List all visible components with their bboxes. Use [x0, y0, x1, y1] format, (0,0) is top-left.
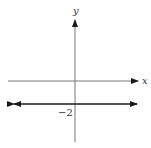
coordinate-plane: y x −2 [0, 0, 151, 148]
intercept-label: −2 [58, 107, 73, 118]
x-axis-label: x [142, 75, 148, 86]
left-arrowhead [13, 101, 21, 107]
y-axis-label: y [72, 5, 79, 16]
